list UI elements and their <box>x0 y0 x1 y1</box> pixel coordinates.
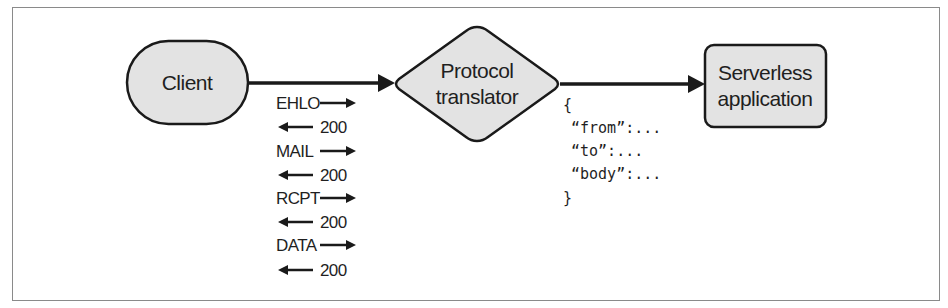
edge-translator-to-serverless <box>560 75 705 93</box>
arrowhead-icon <box>378 74 395 92</box>
json-close-brace: } <box>563 189 572 207</box>
smtp-command-mail: MAIL <box>276 142 313 161</box>
arrowhead-icon <box>688 75 705 93</box>
right-arrow-icon <box>346 98 356 108</box>
serverless-application-node: Serverless application <box>705 45 826 127</box>
client-node: Client <box>127 41 248 124</box>
json-open-brace: { <box>563 96 572 114</box>
json-field-body: “body”:... <box>571 165 661 183</box>
json-field-from: “from”:... <box>571 119 661 137</box>
client-label: Client <box>162 71 213 94</box>
smtp-response-200: 200 <box>320 118 347 137</box>
smtp-command-ehlo: EHLO <box>276 94 320 113</box>
protocol-translator-node: Protocol translator <box>396 27 558 141</box>
right-arrow-icon <box>346 240 356 250</box>
smtp-response-200: 200 <box>320 166 347 185</box>
smtp-response-200: 200 <box>320 213 347 232</box>
edge-client-to-translator <box>248 74 395 92</box>
smtp-command-data: DATA <box>276 236 318 255</box>
smtp-response-200: 200 <box>320 261 347 280</box>
serverless-label-line2: application <box>718 87 813 110</box>
smtp-exchange: EHLO 200 MAIL 200 RCPT 200 DATA 200 <box>276 94 356 280</box>
right-arrow-icon <box>346 193 356 203</box>
right-arrow-icon <box>346 146 356 156</box>
json-payload: { “from”:... “to”:... “body”:... } <box>563 96 661 207</box>
smtp-command-rcpt: RCPT <box>276 189 320 208</box>
json-field-to: “to”:... <box>571 142 643 160</box>
translator-label-line2: translator <box>436 85 519 108</box>
smtp-translation-diagram: Client Protocol translator Serverless ap… <box>0 0 948 308</box>
translator-label-line1: Protocol <box>440 59 513 82</box>
serverless-label-line1: Serverless <box>718 61 812 84</box>
